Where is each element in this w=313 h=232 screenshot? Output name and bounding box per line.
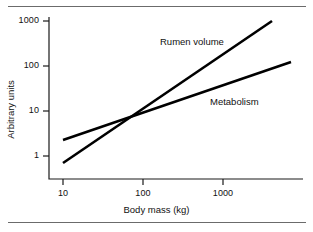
x-axis-title: Body mass (kg): [0, 204, 313, 215]
figure-bottom-rule: [8, 222, 306, 223]
figure-container: 1000 100 10 1 10 100 1000 Body mass (kg)…: [0, 0, 313, 232]
series-label-rumen-volume: Rumen volume: [160, 36, 224, 47]
x-axis-ticks: [63, 179, 223, 185]
series-label-metabolism: Metabolism: [210, 96, 259, 107]
y-tick-label-1000: 1000: [4, 15, 39, 25]
x-tick-label-1000: 1000: [203, 188, 243, 198]
x-tick-label-10: 10: [43, 188, 83, 198]
y-axis-ticks: [43, 21, 49, 156]
y-axis-title: Arbitrary units: [5, 67, 16, 153]
x-tick-label-100: 100: [123, 188, 163, 198]
